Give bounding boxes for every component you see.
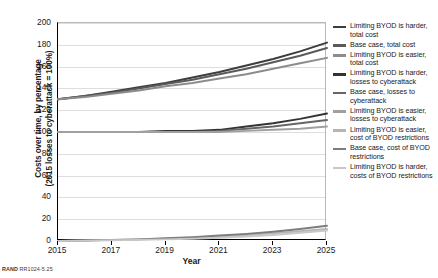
legend-item-label: Limiting BYOD is easier, losses to cyber… <box>350 107 438 124</box>
legend-color-swatch <box>333 73 346 76</box>
x-tick-label: 2023 <box>263 245 282 255</box>
legend-item[interactable]: Base case, losses to cyberattack <box>333 88 438 105</box>
y-tick-label: 60 <box>42 170 51 180</box>
legend-item-label: Limiting BYOD is easier, cost of BYOD re… <box>350 126 438 143</box>
y-tick-label: 40 <box>42 191 51 201</box>
legend-color-swatch <box>333 110 346 113</box>
x-tick-mark <box>57 241 58 245</box>
legend-color-swatch <box>333 26 346 29</box>
legend-color-swatch <box>333 167 346 170</box>
figure-footer: RAND RR1024-5.25 <box>2 266 53 272</box>
legend-color-swatch <box>333 148 346 151</box>
series-line <box>58 43 327 100</box>
legend-color-swatch <box>333 44 346 47</box>
legend-item[interactable]: Limiting BYOD is harder, total cost <box>333 22 438 39</box>
legend-item-label: Base case, losses to cyberattack <box>350 88 438 105</box>
y-tick-label: 100 <box>37 126 51 136</box>
legend-color-swatch <box>333 129 346 132</box>
y-axis-ticks: 020406080100120140160180200 <box>18 22 54 240</box>
y-tick-label: 200 <box>37 17 51 27</box>
x-tick-mark <box>111 241 112 245</box>
x-tick-mark <box>272 241 273 245</box>
legend-item-label: Limiting BYOD is harder, total cost <box>350 22 438 39</box>
figure-id: RR1024-5.25 <box>20 266 53 272</box>
x-tick-label: 2019 <box>155 245 174 255</box>
y-tick-label: 120 <box>37 104 51 114</box>
series-line <box>58 127 327 132</box>
legend-color-swatch <box>333 92 346 95</box>
y-tick-label: 0 <box>46 235 51 245</box>
x-tick-mark <box>218 241 219 245</box>
legend-item-label: Limiting BYOD is easier, total cost <box>350 51 438 68</box>
legend-color-swatch <box>333 54 346 57</box>
x-axis-ticks: 201520172019202120232025 <box>57 241 326 257</box>
legend-item-label: Base case, total cost <box>350 41 415 50</box>
y-tick-label: 140 <box>37 82 51 92</box>
legend-item-label: Base case, cost of BYOD restrictions <box>350 144 438 161</box>
legend-item[interactable]: Limiting BYOD is easier, total cost <box>333 51 438 68</box>
rand-brand: RAND <box>2 266 18 272</box>
x-tick-label: 2015 <box>48 245 67 255</box>
y-tick-label: 80 <box>42 148 51 158</box>
y-tick-label: 180 <box>37 39 51 49</box>
x-tick-label: 2017 <box>101 245 120 255</box>
y-tick-label: 160 <box>37 61 51 71</box>
x-tick-label: 2025 <box>317 245 336 255</box>
legend-item[interactable]: Limiting BYOD is harder, losses to cyber… <box>333 69 438 86</box>
chart-legend: Limiting BYOD is harder, total costBase … <box>333 22 438 182</box>
x-axis-label: Year <box>57 256 326 266</box>
series-lines <box>58 23 327 241</box>
y-tick-label: 20 <box>42 213 51 223</box>
legend-item[interactable]: Limiting BYOD is harder, costs of BYOD r… <box>333 163 438 180</box>
legend-item[interactable]: Limiting BYOD is easier, losses to cyber… <box>333 107 438 124</box>
legend-item[interactable]: Base case, total cost <box>333 41 438 50</box>
legend-item-label: Limiting BYOD is harder, losses to cyber… <box>350 69 438 86</box>
x-tick-mark <box>326 241 327 245</box>
legend-item-label: Limiting BYOD is harder, costs of BYOD r… <box>350 163 438 180</box>
plot-area <box>57 22 326 240</box>
legend-item[interactable]: Base case, cost of BYOD restrictions <box>333 144 438 161</box>
chart-figure: Costs over time, by percentage (2015 los… <box>0 0 438 278</box>
x-tick-label: 2021 <box>209 245 228 255</box>
legend-item[interactable]: Limiting BYOD is easier, cost of BYOD re… <box>333 126 438 143</box>
x-tick-mark <box>165 241 166 245</box>
